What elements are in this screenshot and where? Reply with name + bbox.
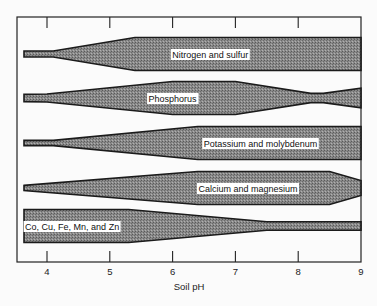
band-phosphorus: Phosphorus bbox=[24, 82, 361, 115]
band-label: Nitrogen and sulfur bbox=[172, 50, 248, 60]
x-axis-label: Soil pH bbox=[174, 281, 205, 292]
x-tick-label: 6 bbox=[170, 266, 175, 277]
nutrient-availability-diagram: Nitrogen and sulfurPhosphorusPotassium a… bbox=[0, 0, 377, 306]
bands-group: Nitrogen and sulfurPhosphorusPotassium a… bbox=[24, 38, 361, 243]
band-calcium-and-magnesium: Calcium and magnesium bbox=[24, 172, 361, 205]
x-tick-label: 5 bbox=[107, 266, 112, 277]
band-label: Co, Cu, Fe, Mn, and Zn bbox=[25, 222, 119, 232]
band-co-cu-fe-mn-and-zn: Co, Cu, Fe, Mn, and Zn bbox=[24, 210, 361, 243]
band-label: Potassium and molybdenum bbox=[204, 139, 318, 149]
band-shape bbox=[24, 172, 361, 205]
band-potassium-and-molybdenum: Potassium and molybdenum bbox=[24, 127, 361, 160]
x-tick-label: 9 bbox=[358, 266, 363, 277]
x-tick-label: 4 bbox=[44, 266, 49, 277]
x-tick-label: 8 bbox=[296, 266, 301, 277]
band-nitrogen-and-sulfur: Nitrogen and sulfur bbox=[24, 38, 361, 71]
band-label: Phosphorus bbox=[149, 94, 198, 104]
band-label: Calcium and magnesium bbox=[198, 184, 297, 194]
x-tick-label: 7 bbox=[233, 266, 238, 277]
